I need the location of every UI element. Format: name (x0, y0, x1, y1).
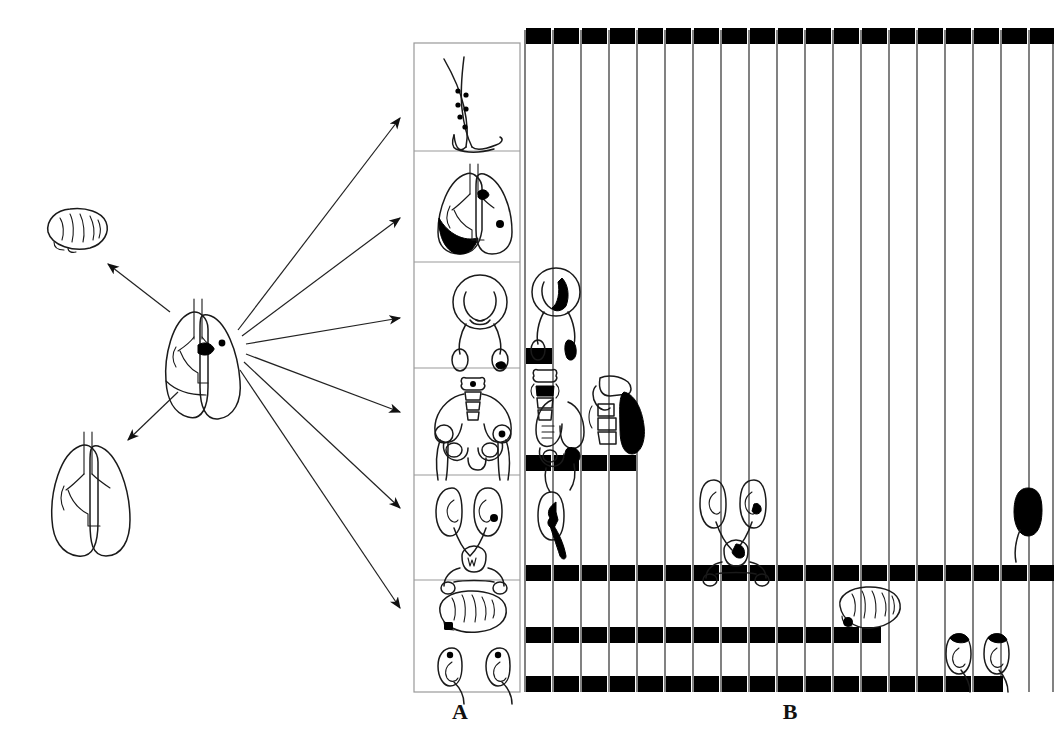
bar-top-timeline (526, 28, 1054, 44)
bar-final-timeline (526, 676, 1003, 692)
bar-chest-shoulder (526, 348, 552, 364)
metastasis-figure: A B (0, 0, 1062, 734)
panel-a-label: A (452, 699, 468, 724)
bar-kidney-bladder (526, 565, 1054, 581)
tumor-nodule (219, 340, 226, 347)
panel-b-label: B (783, 699, 798, 724)
figure-background (0, 0, 1062, 734)
